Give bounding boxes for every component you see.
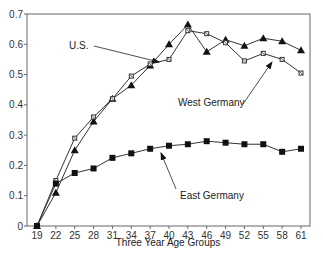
annotation-arrow <box>161 153 176 189</box>
x-tick-label: 52 <box>239 230 251 241</box>
annotation-layer: U.S.West GermanyEast Germany <box>69 40 272 201</box>
annotation-label: West Germany <box>178 97 245 108</box>
triangle-marker <box>259 34 267 41</box>
square-marker <box>241 141 247 147</box>
annotation-arrow <box>243 62 272 104</box>
x-tick-label: 49 <box>220 230 232 241</box>
x-tick-label: 19 <box>31 230 43 241</box>
x-tick-label: 25 <box>69 230 81 241</box>
y-tick-label: 0 <box>17 221 23 232</box>
square-marker <box>128 150 134 156</box>
x-tick-label: 58 <box>277 230 289 241</box>
triangle-marker <box>297 46 305 53</box>
square-marker <box>109 155 115 161</box>
triangle-marker <box>184 21 192 28</box>
square-marker <box>166 143 172 149</box>
annotation-u-s: U.S. <box>69 40 159 62</box>
annotation-west-germany: West Germany <box>178 62 272 108</box>
square-marker <box>185 141 191 147</box>
annotation-east-germany: East Germany <box>161 153 244 201</box>
y-tick-label: 0.3 <box>9 130 23 141</box>
y-axis: 00.10.20.30.40.50.60.7 <box>9 9 27 232</box>
y-tick-label: 0.2 <box>9 160 23 171</box>
x-tick-label: 55 <box>258 230 270 241</box>
square-marker <box>298 146 304 152</box>
series-line <box>37 141 301 226</box>
x-tick-label: 61 <box>295 230 307 241</box>
square-marker <box>147 146 153 152</box>
square-marker <box>34 223 40 229</box>
square-marker <box>260 141 266 147</box>
square-marker <box>72 170 78 176</box>
annotation-arrow <box>94 46 159 62</box>
square-marker <box>91 165 97 171</box>
annotation-label: East Germany <box>180 190 244 201</box>
triangle-marker <box>71 146 79 153</box>
series-west-germany <box>35 29 303 228</box>
series-layer <box>33 21 305 229</box>
x-axis-title: Three Year Age Groups <box>116 237 221 248</box>
square-marker <box>223 140 229 146</box>
square-marker <box>204 138 210 144</box>
square-marker <box>279 149 285 155</box>
y-tick-label: 0.6 <box>9 39 23 50</box>
y-tick-label: 0.4 <box>9 99 23 110</box>
x-tick-label: 22 <box>50 230 62 241</box>
x-tick-label: 28 <box>88 230 100 241</box>
y-tick-label: 0.5 <box>9 69 23 80</box>
y-tick-label: 0.1 <box>9 190 23 201</box>
triangle-marker <box>203 48 211 55</box>
square-marker <box>53 181 59 187</box>
annotation-label: U.S. <box>69 40 88 51</box>
y-tick-label: 0.7 <box>9 9 23 20</box>
line-chart: 00.10.20.30.40.50.60.7 19222528313437404… <box>0 0 323 262</box>
